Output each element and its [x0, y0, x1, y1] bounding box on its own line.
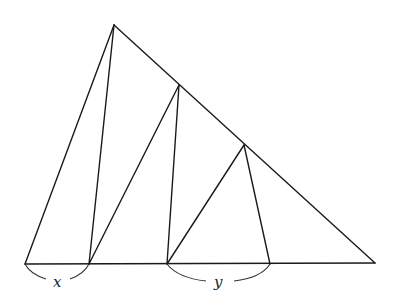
brace-x-right [70, 264, 89, 279]
brace-y-left [167, 264, 206, 281]
left-side [25, 25, 114, 264]
right-side [114, 25, 375, 263]
brace-y-right [234, 264, 270, 281]
base-line [25, 263, 375, 264]
geometry-diagram: x y [0, 0, 406, 306]
label-x: x [53, 273, 62, 291]
zigzag-segment-1 [89, 25, 114, 264]
brace-x-left [25, 264, 46, 279]
zigzag-segment-2 [89, 85, 179, 264]
zigzag-segment-4 [167, 145, 244, 264]
zigzag-segment-3 [167, 85, 179, 264]
label-y: y [213, 273, 223, 291]
